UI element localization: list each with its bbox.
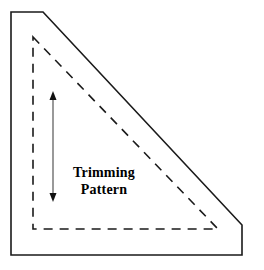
label-line-1: Trimming: [59, 164, 149, 181]
label-line-2: Pattern: [59, 181, 149, 198]
trimming-pattern-label: Trimming Pattern: [59, 164, 149, 198]
trimming-pattern-figure: Trimming Pattern: [0, 0, 264, 270]
figure-canvas: [0, 0, 264, 270]
